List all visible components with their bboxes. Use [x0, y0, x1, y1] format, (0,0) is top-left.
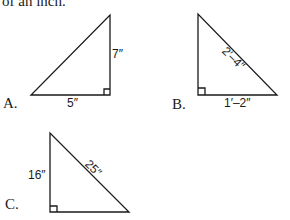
- figure-label-b: B.: [172, 96, 186, 113]
- triangle-figures: [0, 0, 290, 220]
- triangle-a-height: 7″: [112, 47, 123, 61]
- triangle-a: [31, 15, 110, 95]
- figure-label-c: C.: [5, 196, 19, 213]
- triangle-c-height: 16″: [28, 168, 46, 182]
- triangle-a-base: 5″: [67, 96, 78, 110]
- triangle-b-base: 1′–2″: [224, 96, 251, 110]
- figure-label-a: A.: [3, 95, 18, 112]
